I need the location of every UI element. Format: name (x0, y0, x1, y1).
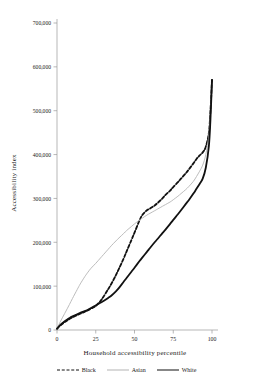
x-axis-tick-label: 75 (170, 336, 176, 342)
y-axis-title-text: Accessibility index (10, 154, 18, 212)
legend-swatch-white-icon (157, 368, 179, 373)
x-axis-tick-label: 50 (132, 336, 138, 342)
x-axis-tick-label: 0 (56, 336, 59, 342)
legend-swatch-asian-icon (107, 368, 129, 373)
plot-area: 0100,000200,000300,000400,000500,000600,… (0, 0, 253, 388)
y-axis-tick-label: 700,000 (33, 20, 51, 26)
accessibility-index-chart: 0100,000200,000300,000400,000500,000600,… (0, 0, 253, 388)
y-axis-tick-label: 0 (48, 327, 51, 333)
y-axis-tick-label: 100,000 (33, 284, 51, 290)
legend-item-black: Black (57, 367, 96, 373)
series-line-asian (57, 82, 212, 328)
y-axis-tick-label: 400,000 (33, 152, 51, 158)
legend-swatch-black-icon (57, 368, 79, 373)
axes: 0100,000200,000300,000400,000500,000600,… (33, 19, 218, 342)
legend-item-asian: Asian (107, 367, 146, 373)
legend-label-white: White (182, 367, 197, 373)
y-axis-title: Accessibility index (6, 118, 22, 248)
legend-item-white: White (157, 367, 197, 373)
x-axis-tick-label: 100 (208, 336, 217, 342)
y-axis-tick-label: 600,000 (33, 64, 51, 70)
series-line-black (57, 80, 212, 329)
x-axis-title: Household accessibility percentile (57, 349, 213, 357)
y-axis-tick-label: 500,000 (33, 108, 51, 114)
x-axis-tick-label: 25 (93, 336, 99, 342)
y-axis-tick-label: 200,000 (33, 240, 51, 246)
legend-label-asian: Asian (132, 367, 146, 373)
y-axis-tick-label: 300,000 (33, 196, 51, 202)
data-series (57, 80, 212, 329)
series-line-white (57, 80, 212, 329)
legend-label-black: Black (82, 367, 96, 373)
chart-legend: Black Asian White (0, 367, 253, 373)
